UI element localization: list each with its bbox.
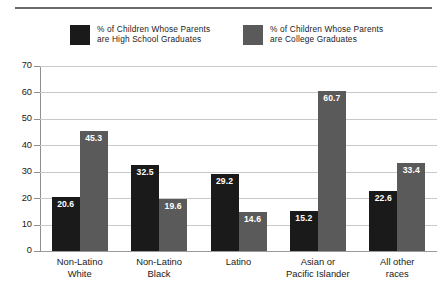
legend-swatch-high-school — [70, 25, 90, 45]
bar: 19.6 — [159, 199, 187, 251]
x-axis-category-label: Non-Latino White — [40, 256, 119, 281]
bar-value-label: 29.2 — [211, 177, 239, 186]
bar-group: 22.633.4 — [369, 66, 425, 251]
bar-group: 15.260.7 — [290, 66, 346, 251]
x-axis-category-labels: Non-Latino WhiteNon-Latino BlackLatinoAs… — [40, 256, 437, 296]
bar-group: 20.645.3 — [52, 66, 108, 251]
bar: 14.6 — [239, 212, 267, 251]
bar-value-label: 33.4 — [397, 166, 425, 175]
bar: 22.6 — [369, 191, 397, 251]
bar: 32.5 — [131, 165, 159, 251]
bar: 29.2 — [211, 174, 239, 251]
bar-value-label: 22.6 — [369, 194, 397, 203]
x-axis-category-label: Non-Latino Black — [119, 256, 198, 281]
y-axis-tick-labels: 010203040506070 — [0, 0, 32, 299]
x-axis-category-label: All other races — [358, 256, 437, 281]
bar: 33.4 — [397, 163, 425, 251]
bar: 20.6 — [52, 197, 80, 251]
bar-value-label: 15.2 — [290, 214, 318, 223]
y-axis-tick-label: 50 — [2, 114, 32, 123]
legend-swatch-college — [243, 25, 263, 45]
x-axis-category-label: Latino — [199, 256, 278, 268]
bar-value-label: 19.6 — [159, 202, 187, 211]
legend-label-college: % of Children Whose Parents are College … — [270, 24, 383, 45]
legend-item-college: % of Children Whose Parents are College … — [243, 24, 383, 45]
chart-legend: % of Children Whose Parents are High Sch… — [0, 24, 447, 54]
x-axis-category-label: Asian or Pacific Islander — [278, 256, 357, 281]
plot-area: 20.645.332.519.629.214.615.260.722.633.4 — [40, 66, 437, 251]
x-axis-line — [40, 251, 437, 252]
bar-value-label: 60.7 — [318, 94, 346, 103]
y-axis-tick-label: 60 — [2, 88, 32, 97]
y-axis-tick-label: 10 — [2, 220, 32, 229]
legend-item-high-school: % of Children Whose Parents are High Sch… — [70, 24, 210, 45]
bar-value-label: 45.3 — [80, 134, 108, 143]
bar-value-label: 32.5 — [131, 168, 159, 177]
bar-group: 29.214.6 — [211, 66, 267, 251]
y-axis-tick-label: 30 — [2, 167, 32, 176]
bar-value-label: 20.6 — [52, 200, 80, 209]
legend-label-high-school: % of Children Whose Parents are High Sch… — [97, 24, 210, 45]
y-axis-tick-label: 0 — [2, 246, 32, 255]
bar: 60.7 — [318, 91, 346, 251]
y-axis-tick-label: 40 — [2, 141, 32, 150]
y-axis-tick-label: 70 — [2, 61, 32, 70]
bar-value-label: 14.6 — [239, 215, 267, 224]
bar: 15.2 — [290, 211, 318, 251]
bar-group: 32.519.6 — [131, 66, 187, 251]
bar: 45.3 — [80, 131, 108, 251]
y-axis-tick-label: 20 — [2, 194, 32, 203]
header-divider — [15, 7, 432, 9]
